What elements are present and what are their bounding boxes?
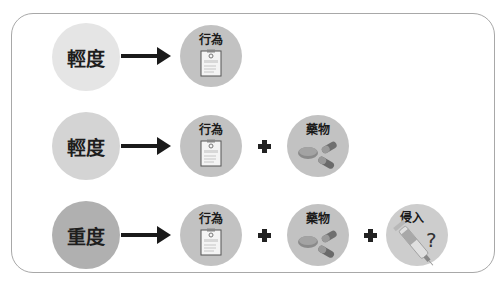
- arrow-icon: [121, 137, 171, 155]
- severity-label: 輕度: [67, 133, 106, 160]
- clipboard-icon: [200, 228, 222, 256]
- severity-label: 輕度: [67, 44, 106, 71]
- item-label: 藥物: [306, 124, 330, 137]
- severity-mild-2: 輕度: [52, 112, 120, 180]
- item-label: 行為: [199, 213, 223, 226]
- clipboard-icon: [200, 139, 222, 167]
- behavior-therapy-2: 行為: [180, 115, 242, 177]
- arrow-icon: [121, 226, 171, 244]
- pills-icon: [296, 228, 340, 258]
- pills-icon: [296, 139, 340, 169]
- severity-label: 重度: [67, 222, 106, 249]
- medication-3: 藥物: [287, 204, 349, 266]
- behavior-therapy-3: 行為: [180, 204, 242, 266]
- plus-icon: [258, 229, 271, 242]
- medication-2: 藥物: [287, 115, 349, 177]
- severity-mild-1: 輕度: [52, 23, 120, 91]
- invasive-treatment: 侵入 ?: [386, 204, 448, 266]
- plus-icon: [364, 229, 377, 242]
- item-label: 行為: [199, 124, 223, 137]
- item-label: 藥物: [306, 213, 330, 226]
- severity-severe: 重度: [52, 201, 120, 269]
- clipboard-icon: [200, 49, 222, 77]
- syringe-icon: [386, 204, 448, 266]
- item-label: 行為: [199, 34, 223, 47]
- arrow-icon: [121, 47, 171, 65]
- behavior-therapy-1: 行為: [180, 25, 242, 87]
- question-mark: ?: [426, 228, 437, 252]
- plus-icon: [258, 140, 271, 153]
